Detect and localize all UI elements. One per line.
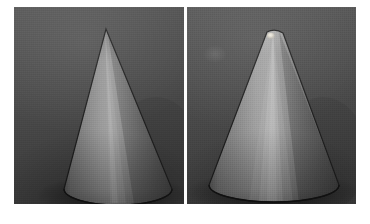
backdrop-highlight-spot-right — [203, 45, 227, 63]
panel-right-rounded-apex-cone — [187, 7, 356, 204]
cone-render-left — [14, 7, 184, 204]
apex-specular-highlight-right — [267, 33, 275, 39]
cone-render-right — [187, 7, 356, 204]
panel-left-sharp-apex-cone — [14, 7, 184, 204]
scene-left — [14, 7, 184, 204]
figure-root — [0, 0, 370, 224]
scene-right — [187, 7, 356, 204]
